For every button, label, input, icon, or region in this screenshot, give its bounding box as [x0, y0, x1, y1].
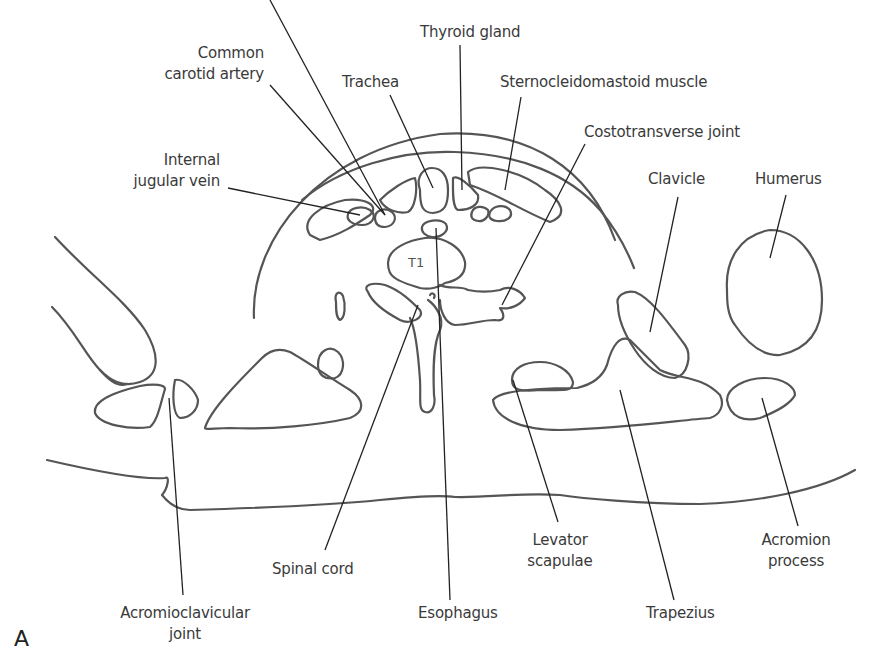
leader-clavicle: [650, 197, 678, 332]
leader-common-carotid: [270, 0, 385, 215]
leader-trachea: [390, 95, 433, 188]
leader-levator-scapulae: [513, 380, 558, 522]
label-spinal-cord: Spinal cord: [272, 559, 354, 580]
leader-acromion: [762, 398, 798, 526]
figure-letter: A: [14, 626, 29, 651]
label-internal-jugular-vein: Internal jugular vein: [118, 150, 220, 192]
label-t1-vertebra: T1: [408, 255, 424, 270]
label-thyroid-gland: Thyroid gland: [420, 22, 520, 43]
leader-sternocleidomastoid: [505, 97, 521, 190]
leader-acromioclavicular: [169, 398, 183, 595]
leader-spinal-cord: [325, 305, 418, 550]
label-esophagus: Esophagus: [418, 603, 498, 624]
label-common-carotid-artery: Common carotid artery: [136, 43, 264, 85]
label-acromion-process: Acromion process: [746, 530, 846, 572]
label-costotransverse-joint: Costotransverse joint: [584, 122, 740, 143]
leader-trapezius: [620, 390, 674, 600]
leader-internal-jugular: [228, 188, 360, 215]
leader-costotransverse: [502, 144, 585, 305]
label-acromioclavicular-joint: Acromioclavicular joint: [100, 603, 270, 645]
leader-thyroid: [460, 45, 462, 190]
leader-esophagus: [436, 228, 450, 600]
leader-common-carotid-2: [270, 85, 385, 215]
leader-humerus: [770, 195, 786, 258]
label-trachea: Trachea: [342, 72, 399, 93]
label-sternocleidomastoid-muscle: Sternocleidomastoid muscle: [500, 72, 707, 93]
label-levator-scapulae: Levator scapulae: [510, 530, 610, 572]
label-clavicle: Clavicle: [648, 169, 705, 190]
label-humerus: Humerus: [755, 169, 822, 190]
label-trapezius: Trapezius: [646, 603, 715, 624]
anatomy-diagram: Common carotid artery Thyroid gland Trac…: [0, 0, 889, 667]
